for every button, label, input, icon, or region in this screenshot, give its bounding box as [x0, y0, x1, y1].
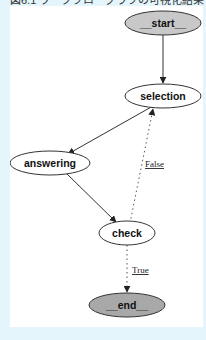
edge-selection-answering	[68, 106, 153, 154]
node-end: __end__	[89, 293, 165, 317]
node-answering: answering	[10, 151, 90, 175]
workflow-graph: False True __start__ selection answering…	[10, 6, 203, 327]
edge-label-true: True	[132, 265, 149, 275]
node-start: __start__	[125, 11, 201, 35]
node-check-label: check	[112, 227, 142, 239]
edge-check-end-true: True	[127, 245, 149, 292]
edge-answering-check	[66, 173, 116, 222]
graph-canvas: False True __start__ selection answering…	[10, 6, 203, 327]
node-end-label: __end__	[105, 299, 148, 311]
node-selection-label: selection	[140, 90, 186, 102]
edge-check-selection-false: False	[130, 109, 164, 223]
node-start-label: __start__	[139, 17, 186, 29]
node-selection: selection	[125, 84, 201, 108]
node-answering-label: answering	[24, 157, 76, 169]
edge-label-false: False	[145, 159, 164, 169]
node-check: check	[99, 221, 155, 245]
